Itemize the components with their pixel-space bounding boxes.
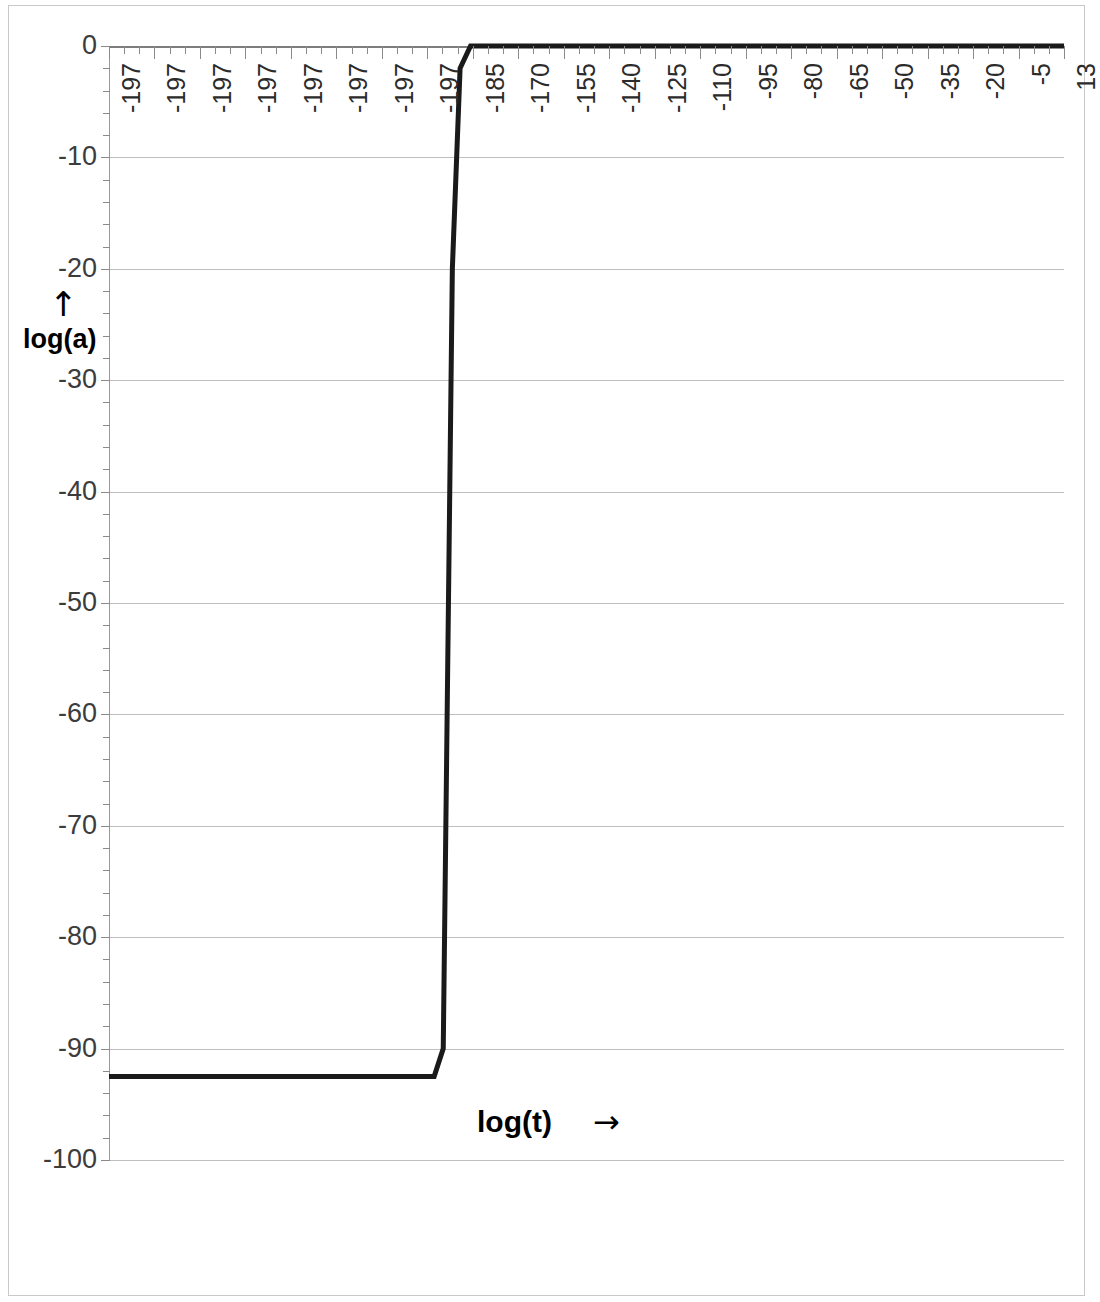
x-axis-tick-minor bbox=[670, 46, 671, 54]
y-axis-tick-label: 0 bbox=[9, 32, 97, 59]
y-axis-tick-minor bbox=[103, 870, 110, 871]
y-axis-tick-label: -90 bbox=[9, 1035, 97, 1062]
x-axis-tick-minor bbox=[731, 46, 732, 54]
y-axis-tick-minor bbox=[103, 447, 110, 448]
x-axis-tick-major bbox=[700, 46, 701, 59]
x-axis-tick-minor bbox=[124, 46, 125, 54]
y-axis-tick-major bbox=[101, 937, 110, 938]
x-axis-tick-minor bbox=[442, 46, 443, 54]
y-axis-tick-minor bbox=[103, 1004, 110, 1005]
x-axis-tick-minor bbox=[821, 46, 822, 54]
y-axis-tick-label: -80 bbox=[9, 923, 97, 950]
y-axis-tick-minor bbox=[103, 91, 110, 92]
x-axis-tick-minor bbox=[261, 46, 262, 54]
x-axis-tick-minor bbox=[503, 46, 504, 54]
y-axis-tick-minor bbox=[103, 224, 110, 225]
x-axis-tick-minor bbox=[806, 46, 807, 54]
y-axis-tick-minor bbox=[103, 336, 110, 337]
gridline-y bbox=[109, 46, 1064, 48]
x-axis-tick-label: -185 bbox=[483, 63, 508, 113]
x-axis-tick-label: -197 bbox=[346, 63, 371, 113]
x-axis-tick-major bbox=[973, 46, 974, 59]
y-axis-tick-major bbox=[101, 1049, 110, 1050]
y-axis-tick-minor bbox=[103, 915, 110, 916]
x-axis-tick-minor bbox=[533, 46, 534, 54]
x-axis-tick-label: -50 bbox=[892, 63, 917, 99]
x-axis-tick-label: -197 bbox=[119, 63, 144, 113]
x-axis-tick-label: -65 bbox=[847, 63, 872, 99]
y-axis-tick-label: -30 bbox=[9, 366, 97, 393]
x-axis-tick-major bbox=[564, 46, 565, 59]
y-axis-tick-major bbox=[101, 714, 110, 715]
y-axis-tick-minor bbox=[103, 425, 110, 426]
x-axis-tick-label: -197 bbox=[164, 63, 189, 113]
y-axis-tick-minor bbox=[103, 959, 110, 960]
gridline-y bbox=[109, 380, 1064, 381]
y-axis-tick-major bbox=[101, 380, 110, 381]
gridline-y bbox=[109, 1049, 1064, 1050]
x-axis-tick-minor bbox=[867, 46, 868, 54]
y-axis-tick-minor bbox=[103, 1138, 110, 1139]
y-axis-tick-minor bbox=[103, 625, 110, 626]
x-axis-tick-label: 13 bbox=[1074, 63, 1099, 91]
x-axis-tick-label: -197 bbox=[301, 63, 326, 113]
x-axis-tick-minor bbox=[458, 46, 459, 54]
y-axis-tick-minor bbox=[103, 982, 110, 983]
y-axis-tick-minor bbox=[103, 1071, 110, 1072]
y-axis-tick-minor bbox=[103, 514, 110, 515]
y-axis-tick-major bbox=[101, 1160, 110, 1161]
gridline-y bbox=[109, 826, 1064, 827]
y-axis-tick-major bbox=[101, 826, 110, 827]
y-axis-tick-label: -50 bbox=[9, 589, 97, 616]
x-axis-tick-label: -110 bbox=[710, 63, 735, 111]
y-axis-tick-minor bbox=[103, 804, 110, 805]
y-axis-tick-label: -10 bbox=[9, 143, 97, 170]
x-axis-tick-major bbox=[336, 46, 337, 59]
x-axis-tick-label: -197 bbox=[437, 63, 462, 113]
x-axis-tick-minor bbox=[230, 46, 231, 54]
y-axis-tick-label: -60 bbox=[9, 700, 97, 727]
y-axis-tick-minor bbox=[103, 68, 110, 69]
x-axis-tick-major bbox=[746, 46, 747, 59]
x-axis-tick-minor bbox=[761, 46, 762, 54]
x-axis-tick-label: -5 bbox=[1029, 63, 1054, 85]
y-axis-tick-minor bbox=[103, 180, 110, 181]
x-axis-tick-major bbox=[200, 46, 201, 59]
x-axis-tick-minor bbox=[776, 46, 777, 54]
x-axis-arrow-icon: → bbox=[593, 1106, 620, 1138]
y-axis-tick-minor bbox=[103, 402, 110, 403]
y-axis-tick-minor bbox=[103, 1093, 110, 1094]
x-axis-tick-label: -125 bbox=[665, 63, 690, 113]
y-axis-tick-major bbox=[101, 269, 110, 270]
x-axis-tick-minor bbox=[549, 46, 550, 54]
y-axis-tick-minor bbox=[103, 1026, 110, 1027]
x-axis-tick-label: -80 bbox=[801, 63, 826, 99]
x-axis-tick-minor bbox=[321, 46, 322, 54]
x-axis-tick-minor bbox=[139, 46, 140, 54]
y-axis-tick-minor bbox=[103, 848, 110, 849]
x-axis-tick-minor bbox=[215, 46, 216, 54]
x-axis-tick-minor bbox=[397, 46, 398, 54]
y-axis-tick-minor bbox=[103, 313, 110, 314]
y-axis-tick-major bbox=[101, 492, 110, 493]
x-axis-tick-label: -20 bbox=[983, 63, 1008, 99]
x-axis-tick-major bbox=[473, 46, 474, 59]
x-axis-tick-major bbox=[1019, 46, 1020, 59]
x-axis-tick-minor bbox=[594, 46, 595, 54]
y-axis-tick-minor bbox=[103, 358, 110, 359]
x-axis-tick-label: -197 bbox=[255, 63, 280, 113]
x-axis-tick-major bbox=[245, 46, 246, 59]
x-axis-tick-label: -170 bbox=[528, 63, 553, 113]
gridline-y bbox=[109, 937, 1064, 938]
x-axis-tick-minor bbox=[624, 46, 625, 54]
x-axis-tick-minor bbox=[306, 46, 307, 54]
gridline-y bbox=[109, 1160, 1064, 1161]
x-axis-tick-minor bbox=[715, 46, 716, 54]
x-axis-tick-major bbox=[427, 46, 428, 59]
y-axis-tick-minor bbox=[103, 1115, 110, 1116]
x-axis-tick-label: -95 bbox=[756, 63, 781, 99]
x-axis-tick-minor bbox=[685, 46, 686, 54]
x-axis-tick-minor bbox=[412, 46, 413, 54]
y-axis-arrow-icon: ↑ bbox=[49, 287, 78, 321]
x-axis-tick-minor bbox=[988, 46, 989, 54]
